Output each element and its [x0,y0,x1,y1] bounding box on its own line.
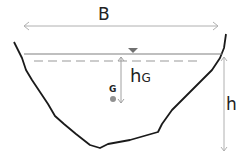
width-label: B [98,4,110,24]
width-dimension-arrow [24,22,218,30]
centroid-depth-subscript: G [141,71,150,85]
channel-diagram [0,0,242,158]
channel-outline [14,34,226,148]
depth-label: h [226,94,237,114]
centroid-label: G [109,84,116,94]
water-level-symbol [128,48,138,53]
centroid-depth-main: h [130,65,141,86]
centroid-depth-label: hG [130,65,151,86]
centroid-depth-arrow [118,57,124,103]
centroid-point [110,96,116,102]
